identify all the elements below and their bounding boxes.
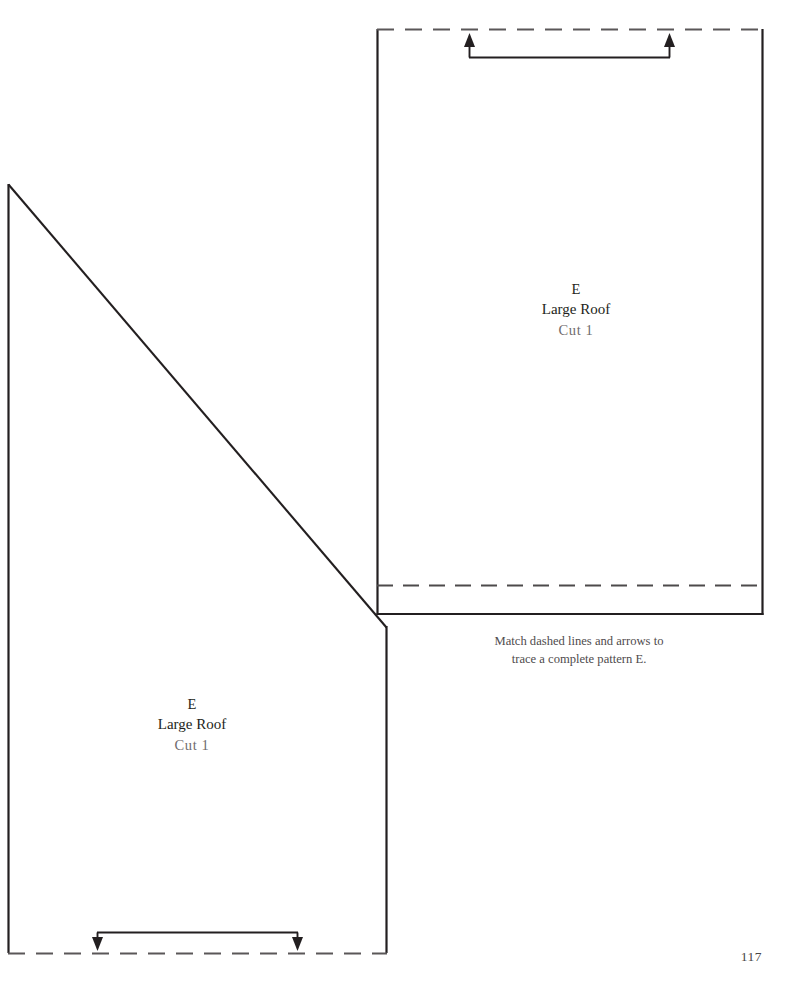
pattern-drawing — [0, 0, 790, 1003]
right-piece-label-name: Large Roof — [494, 299, 658, 320]
left-piece-diagonal-edge — [9, 185, 387, 628]
pattern-sheet-page: E Large Roof Cut 1 E Large Roof Cut 1 Ma… — [0, 0, 790, 1003]
right-piece-label-letter: E — [494, 279, 658, 299]
arrow-down-icon-left — [92, 937, 103, 951]
page-number: 117 — [700, 949, 762, 965]
arrow-down-icon-right — [292, 937, 303, 951]
left-piece-label-letter: E — [110, 694, 274, 714]
left-piece-outline — [8, 184, 387, 954]
caption-line-1: Match dashed lines and arrows to — [455, 632, 703, 650]
left-piece-arrow-group — [92, 933, 303, 952]
caption-line-2: trace a complete pattern E. — [455, 650, 703, 668]
right-piece-label: E Large Roof Cut 1 — [494, 279, 658, 340]
right-piece-arrow-group — [464, 33, 675, 58]
right-piece-label-cut: Cut 1 — [494, 320, 658, 340]
arrow-up-icon-left — [464, 33, 475, 47]
left-piece-label-cut: Cut 1 — [110, 735, 274, 755]
instruction-caption: Match dashed lines and arrows to trace a… — [455, 632, 703, 668]
left-piece-label: E Large Roof Cut 1 — [110, 694, 274, 755]
left-piece-label-name: Large Roof — [110, 714, 274, 735]
arrow-up-icon-right — [664, 33, 675, 47]
